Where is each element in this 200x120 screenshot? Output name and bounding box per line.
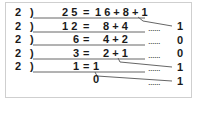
divisor: 2 — [15, 48, 21, 59]
bracket: ) — [30, 48, 34, 59]
bracket: ) — [30, 34, 34, 45]
remainder: 0 — [177, 48, 183, 59]
expression: 8 + 4 — [103, 21, 128, 32]
dots-leader: ...... — [148, 37, 160, 46]
expression: 2 + 1 — [103, 48, 128, 59]
expression: 1 — [93, 61, 99, 72]
bracket: ) — [30, 61, 34, 72]
divisor: 2 — [15, 34, 21, 45]
divisor: 2 — [15, 21, 21, 32]
dots-leader: ...... — [148, 64, 160, 73]
remainder: 1 — [177, 21, 183, 32]
dividend: 2 5 — [62, 7, 77, 18]
equals-sign: = — [83, 7, 89, 18]
equals-sign: = — [83, 61, 89, 72]
remainder: 1 — [177, 76, 183, 87]
expression: 1 6 + 8 + 1 — [95, 7, 148, 18]
dots-leader: ...... — [148, 24, 160, 33]
final-quotient: 0 — [93, 74, 99, 85]
expression: 4 + 2 — [103, 34, 128, 45]
dividend: 6 — [73, 34, 79, 45]
divisor: 2 — [15, 61, 21, 72]
dividend: 1 — [73, 61, 79, 72]
remainder: 0 — [177, 35, 183, 46]
divisor: 2 — [15, 7, 21, 18]
remainder: 1 — [177, 62, 183, 73]
equals-sign: = — [83, 34, 89, 45]
equals-sign: = — [83, 48, 89, 59]
equals-sign: = — [83, 21, 89, 32]
dividend: 1 2 — [62, 21, 77, 32]
dividend: 3 — [73, 48, 79, 59]
dots-leader: ...... — [148, 78, 160, 87]
bracket: ) — [30, 21, 34, 32]
dots-leader: ...... — [148, 51, 160, 60]
bracket: ) — [30, 7, 34, 18]
